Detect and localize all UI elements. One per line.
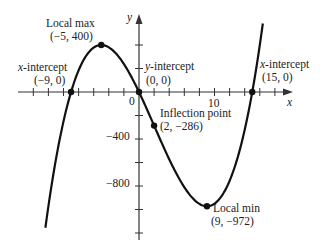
annotation-y-intercept: y-intercept (0, 0) xyxy=(144,60,195,87)
annotation-x-intercept-right: x-intercept (15, 0) xyxy=(259,58,310,84)
x-intercept-left-coords: (−9, 0) xyxy=(34,74,66,87)
inflection-point-title: Inflection point xyxy=(160,107,232,120)
annotation-x-intercept-left: x-intercept (−9, 0) xyxy=(17,61,68,87)
local-max-point xyxy=(98,42,104,48)
local-min-title: Local min xyxy=(213,202,260,214)
annotation-local-max: Local max (−5, 400) xyxy=(46,17,95,43)
inflection-point-coords: (2, −286) xyxy=(160,120,203,133)
local-max-coords: (−5, 400) xyxy=(50,30,93,43)
x-intercept-left-point xyxy=(68,89,74,95)
y-intercept-title: y-intercept xyxy=(144,60,195,73)
x-intercept-right-title: x-intercept xyxy=(259,58,310,71)
x-axis-label: x xyxy=(286,96,293,108)
annotation-local-min: Local min (9, −972) xyxy=(211,202,260,228)
cubic-function-graph: x y 0 10 −400 −800 Local max (−5, 400) x… xyxy=(0,0,328,245)
local-min-point xyxy=(204,203,210,209)
y-intercept-point xyxy=(136,89,142,95)
x-intercept-right-coords: (15, 0) xyxy=(262,71,293,84)
y-axis-arrow-icon xyxy=(136,14,143,24)
x-intercept-right-point xyxy=(249,89,255,95)
tick-label-x-0: 0 xyxy=(129,95,135,107)
inflection-point-point xyxy=(151,122,157,128)
x-axis-arrow-icon xyxy=(283,89,293,96)
tick-label-y-neg400: −400 xyxy=(106,130,130,142)
y-intercept-coords: (0, 0) xyxy=(146,74,171,87)
x-intercept-left-title: x-intercept xyxy=(17,61,68,74)
annotation-inflection-point: Inflection point (2, −286) xyxy=(160,107,232,133)
local-min-coords: (9, −972) xyxy=(211,215,254,228)
y-axis-label: y xyxy=(126,11,133,24)
local-max-title: Local max xyxy=(46,17,95,29)
tick-label-y-neg800: −800 xyxy=(106,177,130,189)
